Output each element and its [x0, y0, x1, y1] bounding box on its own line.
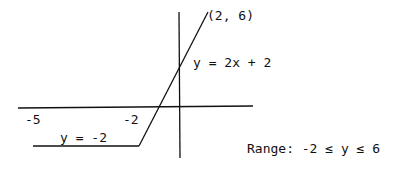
x-tick-neg5: -5 — [25, 113, 41, 126]
x-tick-neg2: -2 — [123, 113, 139, 126]
line-equation-label: y = 2x + 2 — [193, 56, 271, 69]
flat-equation-label: y = -2 — [60, 131, 107, 144]
endpoint-label: (2, 6) — [207, 9, 254, 22]
x-axis — [18, 106, 253, 108]
range-label: Range: -2 ≤ y ≤ 6 — [247, 142, 380, 155]
slanted-segment — [139, 12, 208, 146]
y-axis — [179, 12, 180, 158]
